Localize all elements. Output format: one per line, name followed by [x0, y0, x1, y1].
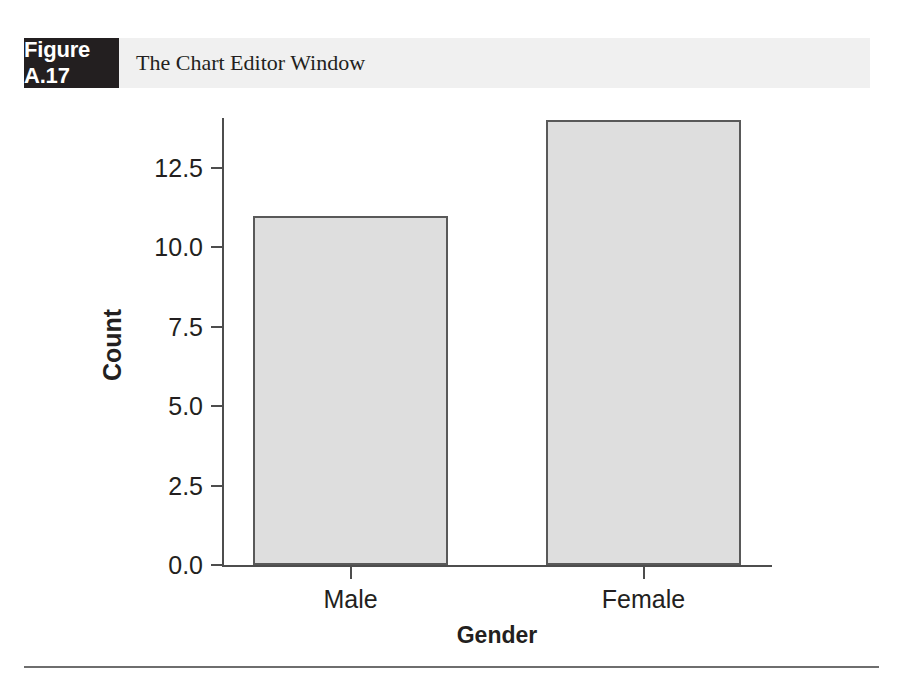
- y-axis-tick: [211, 167, 222, 169]
- y-axis-tick: [211, 485, 222, 487]
- x-axis-tick: [643, 567, 645, 579]
- y-axis-tick-labels: 0.02.55.07.510.012.5: [118, 0, 203, 696]
- x-axis-tick: [350, 567, 352, 579]
- bar-chart: 0.02.55.07.510.012.5 Count MaleFemale Ge…: [0, 0, 899, 696]
- y-axis-tick: [211, 246, 222, 248]
- footer-divider: [24, 666, 879, 668]
- y-axis-tick: [211, 405, 222, 407]
- bar-female: [546, 120, 741, 565]
- bar-male: [253, 216, 448, 565]
- y-axis-tick-label: 5.0: [133, 392, 203, 421]
- y-axis-tick-label: 10.0: [133, 233, 203, 262]
- y-axis-line: [222, 118, 224, 567]
- y-axis-tick-label: 0.0: [133, 551, 203, 580]
- x-axis-tick-label: Male: [241, 585, 461, 614]
- y-axis-title: Count: [98, 309, 127, 381]
- x-axis-title: Gender: [222, 622, 772, 649]
- y-axis-tick: [211, 564, 222, 566]
- y-axis-tick-label: 12.5: [133, 154, 203, 183]
- y-axis-tick-label: 7.5: [133, 312, 203, 341]
- y-axis-tick: [211, 326, 222, 328]
- x-axis-line: [222, 565, 772, 567]
- x-axis-tick-label: Female: [534, 585, 754, 614]
- y-axis-tick-label: 2.5: [133, 471, 203, 500]
